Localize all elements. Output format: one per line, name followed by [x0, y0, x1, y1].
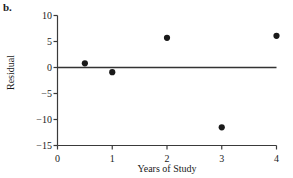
x-tick-label: 3 [212, 154, 232, 164]
y-tick-label: −5 [26, 89, 52, 99]
residual-plot-figure: b. Residual Years of Study 1050−5−10−15 … [0, 0, 293, 178]
y-axis-title: Residual [5, 38, 16, 108]
data-point [109, 69, 115, 75]
data-point [219, 124, 225, 130]
x-tick-label: 1 [102, 154, 122, 164]
x-axis-tick-labels: 01234 [0, 150, 293, 164]
data-point [82, 60, 88, 66]
x-tick-label: 4 [267, 154, 287, 164]
data-point [273, 33, 279, 39]
data-point [164, 35, 170, 41]
x-tick-label: 2 [157, 154, 177, 164]
y-tick-label: 10 [26, 11, 52, 21]
panel-label: b. [3, 0, 12, 14]
y-tick-label: −10 [26, 115, 52, 125]
x-tick-label: 0 [48, 154, 68, 164]
data-point-series [82, 33, 280, 131]
x-axis-ticks [58, 146, 277, 150]
y-tick-label: −15 [26, 141, 52, 151]
y-tick-label: 0 [26, 63, 52, 73]
y-tick-label: 5 [26, 37, 52, 47]
x-axis-title: Years of Study [57, 163, 277, 174]
